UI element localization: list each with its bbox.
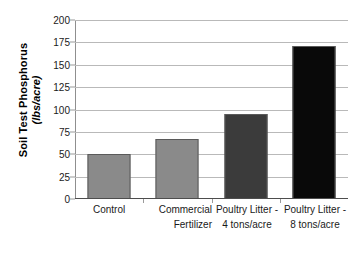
- bar-commercial-fertilizer[interactable]: [156, 139, 199, 199]
- x-axis-labels: Control Commercial Fertilizer Poultry Li…: [75, 203, 348, 253]
- x-label-line2: 4 tons/acre: [213, 218, 281, 233]
- y-tick-label: 150: [53, 59, 70, 70]
- plot-area: [75, 20, 348, 199]
- x-label-poultry-litter-8: Poultry Litter - 8 tons/acre: [281, 203, 349, 232]
- x-axis-line: [75, 198, 348, 199]
- bar-slot-poultry-litter-4: [212, 20, 280, 199]
- bar-chart: Soil Test Phosphorus (lbs/acre) 200 175 …: [0, 0, 363, 256]
- y-tick-label: 25: [59, 171, 70, 182]
- bar-poultry-litter-8-tons[interactable]: [292, 46, 335, 199]
- x-label-line2: Fertilizer: [133, 218, 212, 233]
- y-axis-title-line2: (lbs/acre): [30, 76, 43, 125]
- bar-series: [75, 20, 348, 199]
- bar-slot-control: [75, 20, 143, 199]
- x-label-line1: Poultry Litter -: [213, 203, 281, 218]
- x-label-line1: Poultry Litter -: [281, 203, 349, 218]
- y-axis-title-line1: Soil Test Phosphorus: [17, 43, 30, 157]
- bar-control[interactable]: [88, 154, 131, 199]
- x-label-line1: Commercial: [133, 203, 212, 218]
- x-label-poultry-litter-4: Poultry Litter - 4 tons/acre: [213, 203, 281, 232]
- bar-slot-poultry-litter-8: [280, 20, 348, 199]
- x-label-commercial-fertilizer: Commercial Fertilizer: [133, 203, 212, 232]
- y-axis-tick-labels: 200 175 150 125 100 75 50 25 0: [44, 20, 70, 199]
- bar-slot-commercial-fertilizer: [143, 20, 211, 199]
- y-tick-label: 50: [59, 149, 70, 160]
- y-tick-label: 125: [53, 82, 70, 93]
- x-label-line2: 8 tons/acre: [281, 218, 349, 233]
- y-tick-label: 75: [59, 126, 70, 137]
- y-tick-label: 175: [53, 37, 70, 48]
- y-tick-label: 100: [53, 104, 70, 115]
- y-tick-label: 200: [53, 15, 70, 26]
- bar-poultry-litter-4-tons[interactable]: [224, 114, 267, 199]
